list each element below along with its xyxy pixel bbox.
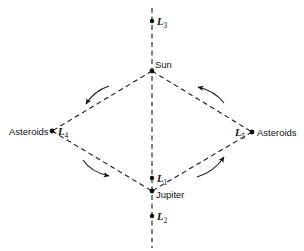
sun-l5-line xyxy=(152,71,252,132)
orbit-arrow-upper-left xyxy=(86,86,109,104)
l2-label: L2 xyxy=(156,211,167,225)
l2-point xyxy=(150,214,154,218)
sun-label: Sun xyxy=(155,59,172,70)
l1-label: L1 xyxy=(156,173,167,187)
l3-point xyxy=(150,19,154,23)
l5-label: L5 xyxy=(234,127,245,141)
orbit-arrow-lower-right xyxy=(197,157,224,177)
sun-point xyxy=(150,69,155,74)
asteroids-right-label: Asteroids xyxy=(257,127,297,138)
l3-label: L3 xyxy=(156,16,167,30)
jupiter-point xyxy=(150,189,155,194)
asteroids-left-label: Asteroids xyxy=(9,126,49,137)
l4-jupiter-line xyxy=(52,131,152,191)
l4-point xyxy=(50,129,55,134)
jupiter-label: Jupiter xyxy=(156,189,185,200)
orbit-arrow-upper-right xyxy=(198,87,224,103)
lagrange-points-diagram: L3 L4 L5 L1 L2 Sun Jupiter Asteroids Ast… xyxy=(0,0,304,251)
l1-point xyxy=(150,176,154,180)
l5-point xyxy=(250,130,255,135)
sun-l4-line xyxy=(52,71,152,131)
